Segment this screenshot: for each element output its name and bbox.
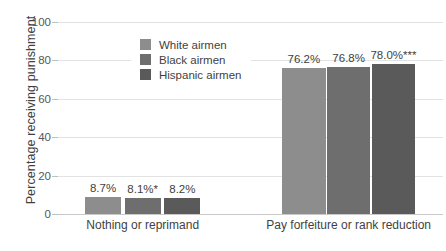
y-axis-tick-mark — [52, 99, 58, 100]
legend-item[interactable]: Black airmen — [140, 52, 241, 67]
y-axis-tick-label: 100 — [32, 16, 51, 28]
y-axis-tick-mark — [52, 137, 58, 138]
bar-value-label: 76.2% — [288, 53, 321, 65]
y-axis-title: Percentage receiving punishment — [24, 0, 38, 220]
y-axis-tick-mark — [52, 60, 58, 61]
legend-swatch-icon — [140, 39, 151, 50]
bar[interactable]: 78.0%*** — [372, 64, 415, 214]
legend: White airmenBlack airmenHispanic airmen — [131, 31, 251, 88]
bar[interactable]: 8.2% — [164, 198, 200, 214]
legend-swatch-icon — [140, 54, 151, 65]
bar-chart: Percentage receiving punishment 02040608… — [0, 0, 446, 251]
bar-value-label: 78.0%*** — [370, 49, 416, 61]
y-axis-tick-label: 80 — [38, 54, 51, 66]
y-axis-tick-mark — [52, 22, 58, 23]
bar[interactable]: 76.2% — [282, 68, 325, 214]
bar[interactable]: 76.8% — [327, 67, 370, 214]
gridline — [58, 214, 443, 215]
bar-value-label: 8.1%* — [127, 183, 158, 195]
bar-value-label: 8.7% — [90, 182, 116, 194]
legend-swatch-icon — [140, 69, 151, 80]
legend-item-label: Black airmen — [159, 54, 225, 66]
y-axis-tick-label: 40 — [38, 131, 51, 143]
gridline — [58, 22, 443, 23]
legend-item-label: White airmen — [159, 39, 227, 51]
bar-value-label: 76.8% — [332, 52, 365, 64]
legend-item[interactable]: White airmen — [140, 37, 241, 52]
y-axis-tick-mark — [52, 176, 58, 177]
bar[interactable]: 8.7% — [85, 197, 121, 214]
legend-item-label: Hispanic airmen — [159, 69, 241, 81]
y-axis-tick-label: 60 — [38, 93, 51, 105]
legend-item[interactable]: Hispanic airmen — [140, 67, 241, 82]
y-axis-tick-label: 20 — [38, 170, 51, 182]
y-axis-tick-mark — [52, 214, 58, 215]
bar[interactable]: 8.1%* — [125, 198, 161, 214]
bar-value-label: 8.2% — [169, 183, 195, 195]
x-axis-category-label: Pay forfeiture or rank reduction — [199, 218, 446, 232]
